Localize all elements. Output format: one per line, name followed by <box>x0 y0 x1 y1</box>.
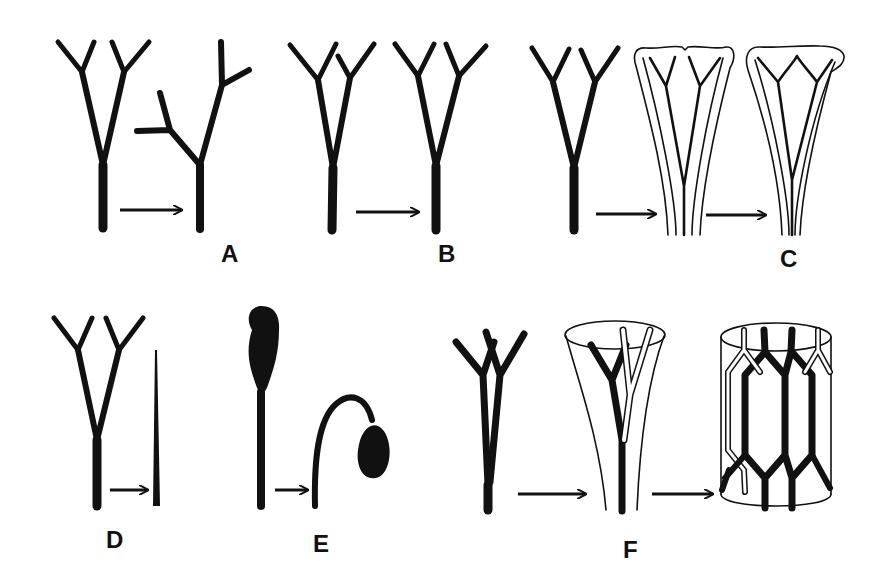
panel-label-d: D <box>106 526 123 553</box>
recurved-sporangium-icon <box>315 397 390 506</box>
reduced-axis-icon <box>153 350 160 506</box>
dichotomous-branch-icon <box>456 332 524 510</box>
erect-sporangium-icon <box>249 306 280 506</box>
partially-webbed-leaf-icon <box>634 46 733 235</box>
webbed-leaf-icon <box>747 46 845 235</box>
dichotomous-branch-icon <box>532 48 618 230</box>
dichotomous-branch-icon <box>290 44 374 230</box>
panel-b: B <box>290 44 486 267</box>
panel-label-c: C <box>780 245 797 272</box>
panel-label-f: F <box>623 536 638 563</box>
panel-e: E <box>249 306 390 557</box>
panel-d: D <box>54 318 160 553</box>
dichotomous-branch-icon <box>54 318 143 506</box>
cylindrical-stele-network-icon <box>721 323 831 508</box>
dichotomous-branch-icon <box>58 42 149 228</box>
overtopped-branch-icon <box>137 42 249 229</box>
panel-label-a: A <box>221 240 238 267</box>
telome-theory-figure: A B <box>0 0 885 586</box>
panel-label-b: B <box>438 240 455 267</box>
panel-a: A <box>58 42 249 267</box>
fusing-stele-icon <box>565 321 665 511</box>
panel-f: F <box>456 321 831 563</box>
panel-c: C <box>532 46 844 272</box>
panel-label-e: E <box>313 530 329 557</box>
planated-branch-icon <box>395 44 486 230</box>
